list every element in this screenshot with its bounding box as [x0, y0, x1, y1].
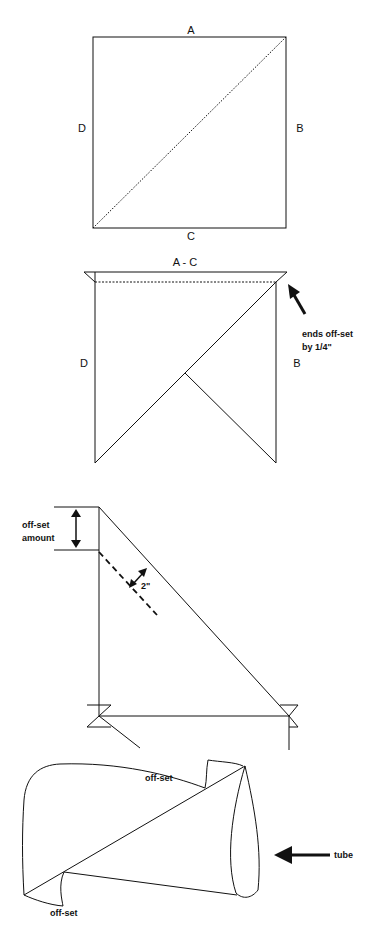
offset-label-line2: amount — [22, 533, 55, 543]
tube-seam — [24, 766, 245, 895]
offset-top-label: off-set — [145, 773, 173, 783]
label-a-c: A - C — [173, 256, 198, 268]
tube-bottom-edge — [64, 872, 237, 895]
left-corner-tick — [84, 272, 95, 282]
hypotenuse — [99, 507, 289, 716]
label-d2: D — [80, 357, 88, 369]
tube-label: tube — [334, 850, 353, 860]
offset-bottom-label: off-set — [50, 908, 78, 918]
label-c: C — [187, 230, 195, 242]
tube-end-opening — [231, 766, 260, 897]
annotation-line2: by 1/4" — [302, 342, 332, 352]
tube-back-left — [23, 764, 206, 895]
offset-label-line1: off-set — [22, 520, 50, 530]
figure-4-tube — [23, 760, 260, 906]
figure-1-square — [93, 37, 286, 228]
label-b: B — [296, 122, 303, 134]
left-tail — [99, 716, 140, 748]
arrow-icon — [288, 284, 305, 314]
label-b2: B — [293, 357, 300, 369]
figure-2-folded — [84, 272, 287, 463]
distance-label: 2" — [141, 581, 150, 591]
diagram-canvas: A B C D A - C D B ends off-set by 1/4" — [0, 0, 379, 940]
tube-bottom-flap — [24, 872, 64, 906]
figure-3-triangle — [54, 507, 298, 750]
double-arrow-vertical-icon — [71, 509, 81, 548]
annotation-line1: ends off-set — [302, 329, 353, 339]
right-corner-tick — [276, 272, 287, 282]
inner-fold — [185, 373, 276, 463]
label-a: A — [187, 24, 195, 36]
label-d: D — [78, 122, 86, 134]
arrow-left-icon — [274, 846, 330, 864]
tube-top-flap — [205, 760, 243, 788]
dotted-diagonal — [93, 37, 286, 228]
